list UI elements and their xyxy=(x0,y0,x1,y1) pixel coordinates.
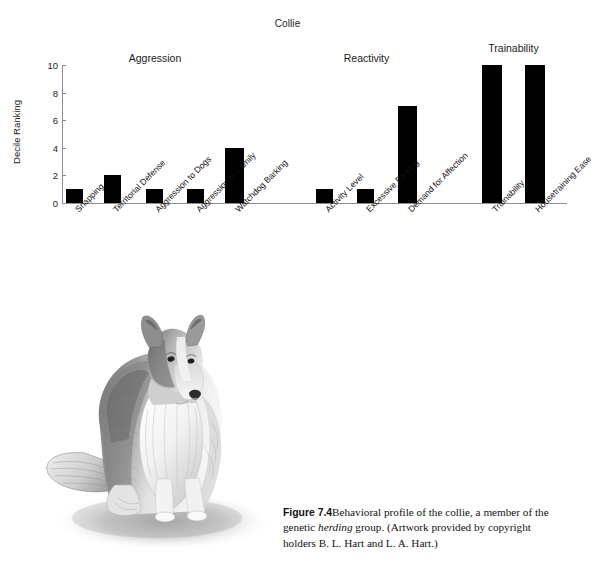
bar-chart-figure: Collie Decile Ranking Aggression Reactiv… xyxy=(0,0,575,300)
y-axis-tick-mark xyxy=(62,203,66,204)
group-label-aggression: Aggression xyxy=(129,52,182,64)
group-label-reactivity: Reactivity xyxy=(344,52,390,64)
bar-series xyxy=(0,65,575,203)
bar xyxy=(398,106,417,203)
chart-title: Collie xyxy=(0,18,575,29)
figure-caption: Figure 7.4Behavioral profile of the coll… xyxy=(283,505,563,551)
group-label-trainability: Trainability xyxy=(488,42,538,54)
bar xyxy=(525,65,545,203)
bar xyxy=(482,65,502,203)
collie-dog-illustration xyxy=(45,303,275,558)
figure-number: Figure 7.4 xyxy=(283,507,332,518)
caption-italic-word: herding xyxy=(318,521,352,533)
